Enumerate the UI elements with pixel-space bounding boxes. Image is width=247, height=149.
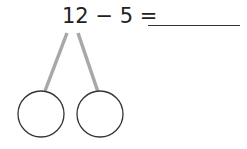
part-circle-left[interactable] — [18, 91, 64, 137]
branch-left — [45, 33, 67, 91]
branch-right — [78, 33, 98, 92]
part-circle-right[interactable] — [77, 91, 123, 137]
number-bond-diagram — [0, 0, 247, 149]
